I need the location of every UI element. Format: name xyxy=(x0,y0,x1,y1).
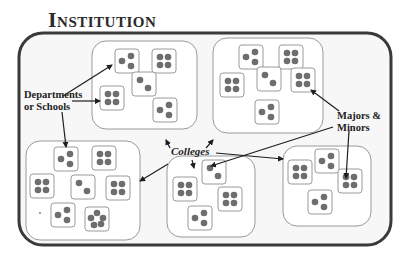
major-dot-icon xyxy=(351,182,358,189)
stray-dot xyxy=(39,212,41,214)
department-box xyxy=(54,147,78,171)
department-frame xyxy=(218,187,242,211)
department-box xyxy=(279,45,303,69)
major-dot-icon xyxy=(111,189,118,196)
department-box xyxy=(92,146,116,170)
department-frame xyxy=(132,72,156,96)
major-dot-icon xyxy=(259,109,266,116)
major-dot-icon xyxy=(296,73,303,80)
major-dot-icon xyxy=(284,58,291,65)
department-box xyxy=(115,49,139,73)
major-dot-icon xyxy=(233,78,240,85)
department-frame xyxy=(315,149,339,173)
department-frame xyxy=(188,206,212,230)
major-dot-icon xyxy=(252,59,259,66)
major-dot-icon xyxy=(233,86,240,93)
college-top-left xyxy=(92,41,197,129)
major-dot-icon xyxy=(145,85,152,92)
department-box xyxy=(218,187,242,211)
major-dot-icon xyxy=(67,161,74,168)
major-dot-icon xyxy=(97,151,104,158)
major-dot-icon xyxy=(231,192,238,199)
department-frame xyxy=(51,203,75,227)
major-dot-icon xyxy=(165,62,172,69)
institution-diagram: Institution Departments or Schools Colle… xyxy=(0,0,404,261)
major-dot-icon xyxy=(165,54,172,61)
major-dot-icon xyxy=(43,187,50,194)
major-dot-icon xyxy=(328,163,335,170)
major-dot-icon xyxy=(293,165,300,172)
department-frame xyxy=(71,175,95,199)
major-dot-icon xyxy=(88,215,95,222)
department-box xyxy=(291,68,315,92)
department-frame xyxy=(308,190,332,214)
department-box xyxy=(188,206,212,230)
major-dot-icon xyxy=(67,151,74,158)
majors-label-line-1: Majors & xyxy=(337,110,381,122)
major-dot-icon xyxy=(98,221,105,228)
major-dot-icon xyxy=(328,153,335,160)
major-dot-icon xyxy=(137,77,144,84)
major-dot-icon xyxy=(100,215,107,222)
major-dot-icon xyxy=(166,102,173,109)
major-dot-icon xyxy=(35,187,42,194)
major-dot-icon xyxy=(304,81,311,88)
major-dot-icon xyxy=(343,182,350,189)
departments-label: Departments or Schools xyxy=(24,89,82,113)
major-dot-icon xyxy=(84,188,91,195)
department-box xyxy=(239,45,263,69)
major-dot-icon xyxy=(119,189,126,196)
major-dot-icon xyxy=(351,174,358,181)
department-box xyxy=(51,203,75,227)
department-frame xyxy=(30,174,54,198)
major-dot-icon xyxy=(55,212,62,219)
major-dot-icon xyxy=(296,81,303,88)
major-dot-icon xyxy=(321,204,328,211)
department-box xyxy=(153,98,177,122)
department-frame xyxy=(338,169,362,193)
major-dot-icon xyxy=(268,104,275,111)
major-dot-icon xyxy=(252,49,259,56)
major-dot-icon xyxy=(201,210,208,217)
department-box xyxy=(315,149,339,173)
major-dot-icon xyxy=(105,151,112,158)
major-dot-icon xyxy=(97,159,104,166)
college-bottom-left xyxy=(26,141,140,240)
major-dot-icon xyxy=(113,91,120,98)
major-dot-icon xyxy=(231,200,238,207)
college-bottom-right xyxy=(283,146,371,226)
major-dot-icon xyxy=(64,207,71,214)
department-frame xyxy=(239,45,263,69)
department-frame xyxy=(257,67,281,91)
department-box xyxy=(257,67,281,91)
major-dot-icon xyxy=(105,99,112,106)
major-dot-icon xyxy=(186,190,193,197)
department-frame xyxy=(255,100,279,124)
college-top-right xyxy=(213,38,323,133)
departments-label-line-2: or Schools xyxy=(24,101,82,113)
department-frame xyxy=(92,146,116,170)
department-frame xyxy=(291,68,315,92)
major-dot-icon xyxy=(43,179,50,186)
department-box xyxy=(202,160,226,184)
major-dot-icon xyxy=(201,220,208,227)
department-box xyxy=(338,169,362,193)
major-dot-icon xyxy=(128,63,135,70)
major-dot-icon xyxy=(76,180,83,187)
department-frame xyxy=(153,98,177,122)
major-dot-icon xyxy=(157,54,164,61)
department-frame xyxy=(288,160,312,184)
department-box xyxy=(30,174,54,198)
departments-label-line-1: Departments xyxy=(24,89,82,101)
department-box xyxy=(132,72,156,96)
department-box xyxy=(106,176,130,200)
major-dot-icon xyxy=(178,190,185,197)
department-box xyxy=(100,86,124,110)
department-frame xyxy=(54,147,78,171)
major-dot-icon xyxy=(91,222,98,229)
major-dot-icon xyxy=(58,156,65,163)
major-dot-icon xyxy=(166,112,173,119)
major-dot-icon xyxy=(284,50,291,57)
major-dot-icon xyxy=(319,158,326,165)
major-dot-icon xyxy=(119,181,126,188)
